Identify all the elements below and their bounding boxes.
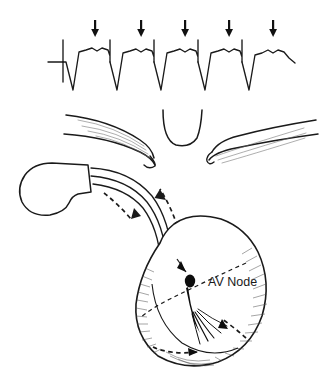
av-node-label: AV Node xyxy=(208,275,257,289)
ecg-heart-conduction-figure: AV Node xyxy=(0,0,327,376)
av-node-dot xyxy=(185,275,195,288)
